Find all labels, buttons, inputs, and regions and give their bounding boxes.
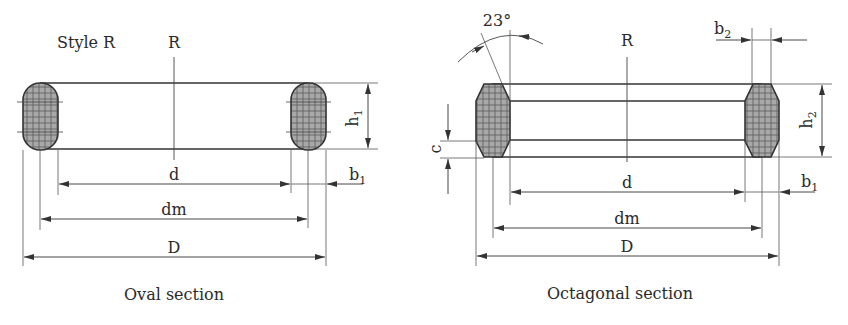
- d-label: d: [169, 165, 179, 184]
- angle-label: 23°: [483, 11, 511, 30]
- angle-arc: [458, 35, 543, 62]
- ring-gasket-diagram: Style R R h1 b1 d dm D Oval section: [0, 0, 848, 325]
- right-octagon-cross-section: [745, 84, 779, 157]
- b1-label: b1: [801, 172, 818, 194]
- octagonal-section-drawing: 23° R b2 h2 c b1 d dm D Octagonal sectio…: [426, 11, 832, 303]
- b1-label: b1: [349, 165, 366, 187]
- svg-text:h1: h1: [343, 109, 365, 126]
- b2-label: b2: [714, 19, 731, 41]
- oval-caption: Oval section: [124, 285, 224, 304]
- d-label: d: [622, 173, 632, 192]
- dm-label: dm: [161, 200, 186, 219]
- svg-text:h2: h2: [797, 111, 819, 128]
- oval-section-drawing: Style R R h1 b1 d dm D Oval section: [17, 33, 378, 304]
- centerline-label: R: [168, 33, 181, 52]
- D-label: D: [621, 237, 634, 256]
- h2-label: h2: [797, 111, 819, 128]
- left-octagon-cross-section: [476, 84, 510, 157]
- c-label: c: [426, 144, 445, 153]
- h1-label: h1: [343, 109, 365, 126]
- style-label: Style R: [57, 33, 116, 52]
- dm-label: dm: [614, 209, 639, 228]
- octagonal-caption: Octagonal section: [547, 284, 693, 303]
- left-oval-cross-section: [23, 83, 58, 150]
- centerline-label: R: [621, 31, 634, 50]
- svg-text:c: c: [426, 144, 445, 153]
- right-oval-cross-section: [291, 83, 326, 150]
- D-label: D: [168, 238, 181, 257]
